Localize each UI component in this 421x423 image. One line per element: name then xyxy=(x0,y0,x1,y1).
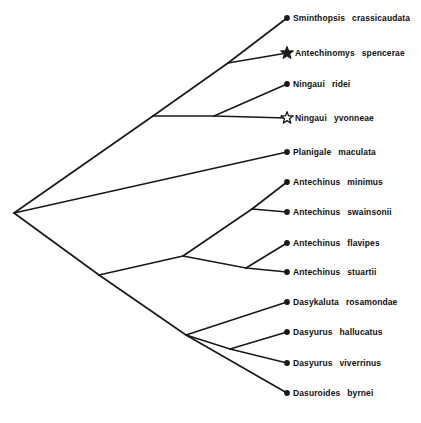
tree-branch xyxy=(246,243,287,268)
taxon-genus: Dasuroides xyxy=(293,388,340,398)
tree-branch xyxy=(99,256,183,275)
tip-dot-antechinus-flavipes xyxy=(284,240,290,246)
tree-branch xyxy=(99,275,186,335)
taxon-genus: Planigale xyxy=(293,147,331,157)
tree-branch xyxy=(228,53,287,63)
tree-branch xyxy=(183,256,246,268)
taxon-species: stuartii xyxy=(347,267,376,277)
tip-dot-dasyurus-viverrinus xyxy=(284,360,290,366)
tree-branch xyxy=(183,209,252,256)
taxon-species: rosamondae xyxy=(346,297,398,307)
taxon-label-antechinus-swainsonii: Antechinusswainsonii xyxy=(293,207,392,217)
taxon-species: flavipes xyxy=(347,238,379,248)
branch-layer xyxy=(14,18,287,393)
taxon-species: minimus xyxy=(347,177,383,187)
taxon-genus: Antechinus xyxy=(293,207,340,217)
tip-marker-layer xyxy=(281,15,293,396)
taxon-species: ridei xyxy=(332,79,350,89)
taxon-species: viverrinus xyxy=(340,358,382,368)
taxon-species: crassicaudata xyxy=(352,13,410,23)
taxon-species: byrnei xyxy=(347,388,373,398)
taxon-species: yvonneae xyxy=(334,113,374,123)
tip-dot-dasyurus-hallucatus xyxy=(284,329,290,335)
taxon-label-antechinomys-spencerae: Antechinomysspencerae xyxy=(295,48,405,58)
taxon-genus: Antechinus xyxy=(293,238,340,248)
taxon-genus: Dasyurus xyxy=(293,327,333,337)
taxon-genus: Antechinus xyxy=(293,177,340,187)
tip-dot-ningaui-ridei xyxy=(284,81,290,87)
tree-branch xyxy=(14,116,153,213)
tree-branch xyxy=(153,63,228,116)
tip-dot-antechinus-swainsonii xyxy=(284,209,290,215)
tree-branch xyxy=(186,302,287,335)
tip-dot-antechinus-minimus xyxy=(284,179,290,185)
tip-dot-antechinus-stuartii xyxy=(284,269,290,275)
taxon-genus: Dasykaluta xyxy=(293,297,339,307)
tip-dot-planigale-maculata xyxy=(284,149,290,155)
tip-dot-dasuroides-byrnei xyxy=(284,390,290,396)
tree-branch xyxy=(230,349,287,363)
tree-branch xyxy=(214,84,287,116)
tree-branch xyxy=(14,152,287,213)
taxon-species: hallucatus xyxy=(340,327,383,337)
taxon-label-dasyurus-viverrinus: Dasyurusviverrinus xyxy=(293,358,381,368)
filled-star-icon-antechinomys-spencerae xyxy=(281,47,293,59)
taxon-label-dasykaluta-rosamondae: Dasykalutarosamondae xyxy=(293,297,397,307)
taxon-label-ningaui-ridei: Ningauiridei xyxy=(293,79,350,89)
tree-branch xyxy=(214,116,287,118)
taxon-label-antechinus-stuartii: Antechinusstuartii xyxy=(293,267,376,277)
tree-branch xyxy=(186,335,287,393)
taxon-species: spencerae xyxy=(362,48,405,58)
taxon-label-antechinus-minimus: Antechinusminimus xyxy=(293,177,383,187)
tip-dot-sminthopsis-crassicaudata xyxy=(284,15,290,21)
taxon-genus: Antechinomys xyxy=(295,48,355,58)
tree-branch xyxy=(14,213,99,275)
taxon-genus: Ningaui xyxy=(295,113,327,123)
tip-dot-dasykaluta-rosamondae xyxy=(284,299,290,305)
taxon-genus: Dasyurus xyxy=(293,358,333,368)
taxon-genus: Antechinus xyxy=(293,267,340,277)
taxon-species: maculata xyxy=(338,147,376,157)
tree-branch xyxy=(246,268,287,272)
taxon-label-dasyurus-hallucatus: Dasyurushallucatus xyxy=(293,327,383,337)
taxon-genus: Ningaui xyxy=(293,79,325,89)
tree-branch xyxy=(228,18,287,63)
taxon-label-dasuroides-byrnei: Dasuroidesbyrnei xyxy=(293,388,373,398)
phylogenetic-tree-figure: SminthopsiscrassicaudataAntechinomysspen… xyxy=(0,0,421,423)
taxon-label-ningaui-yvonneae: Ningauiyvonneae xyxy=(295,113,374,123)
taxon-species: swainsonii xyxy=(347,207,391,217)
taxon-genus: Sminthopsis xyxy=(293,13,345,23)
tree-branch xyxy=(252,209,287,212)
taxon-label-antechinus-flavipes: Antechinusflavipes xyxy=(293,238,380,248)
taxon-label-planigale-maculata: Planigalemaculata xyxy=(293,147,376,157)
tree-branch xyxy=(230,332,287,349)
open-star-icon-ningaui-yvonneae xyxy=(281,112,293,124)
taxon-label-sminthopsis-crassicaudata: Sminthopsiscrassicaudata xyxy=(293,13,410,23)
tree-branch xyxy=(252,182,287,209)
